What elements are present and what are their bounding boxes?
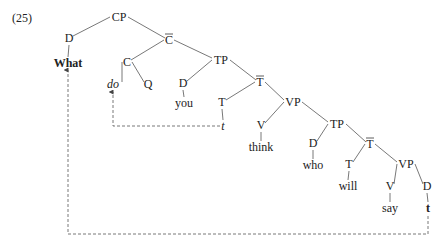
tree-node-d4: D [423, 179, 432, 193]
tree-node-t1: T [218, 95, 226, 109]
tree-edge [394, 164, 397, 184]
tree-node-c: C [123, 55, 131, 69]
example-number: (25) [12, 11, 32, 25]
tree-node-do: do [107, 77, 119, 91]
tree-node-what: What [54, 56, 83, 70]
tree-node-v1: V [257, 118, 266, 132]
tree-node-say: say [382, 201, 398, 215]
tree-node-who: who [303, 158, 324, 172]
tree-node-you: you [175, 96, 193, 110]
tree-node-will: will [339, 179, 358, 193]
tree-node-d3: D [309, 136, 318, 150]
tree-edge [187, 60, 212, 81]
syntax-tree: (25) CPDWhatCCdoQTPDyouTTtVPVthinkTPDwho… [0, 0, 448, 239]
tree-node-tbar2: T [366, 137, 374, 151]
tree-edge [375, 144, 397, 162]
tree-edge [302, 102, 328, 122]
tree-edge [317, 124, 328, 141]
tree-node-tp1: TP [214, 53, 228, 67]
tree-edge [73, 17, 110, 36]
tree-node-cbar: C [165, 33, 173, 47]
tree-edge [174, 40, 212, 58]
tree-node-vp2: VP [398, 157, 414, 171]
tree-edge [128, 17, 165, 38]
tree-nodes: CPDWhatCCdoQTPDyouTTtVPVthinkTPDwhoTTwil… [54, 10, 432, 215]
tree-node-cp: CP [112, 10, 127, 24]
tree-node-v2: V [386, 179, 395, 193]
tree-node-tbar1: T [256, 75, 264, 89]
tree-edge [132, 62, 144, 82]
tree-edge [265, 102, 284, 123]
tree-node-tp2: TP [330, 117, 344, 131]
tree-edges [68, 17, 428, 202]
tree-node-t2: t [426, 201, 430, 215]
tree-node-vp1: VP [285, 95, 301, 109]
tree-node-d1: D [65, 31, 74, 45]
tree-node-d2: D [179, 76, 188, 90]
movement-arrow-t-to-do [113, 92, 220, 126]
tree-node-think: think [249, 140, 274, 154]
tree-edge [353, 144, 365, 162]
tree-node-q: Q [144, 77, 153, 91]
tree-edge [230, 60, 256, 80]
tree-node-t2: T [345, 157, 353, 171]
tree-edge [265, 82, 284, 100]
tree-edge [131, 40, 164, 60]
tree-node-t1: t [221, 119, 225, 133]
tree-edge [226, 82, 255, 100]
tree-edge [346, 124, 366, 142]
